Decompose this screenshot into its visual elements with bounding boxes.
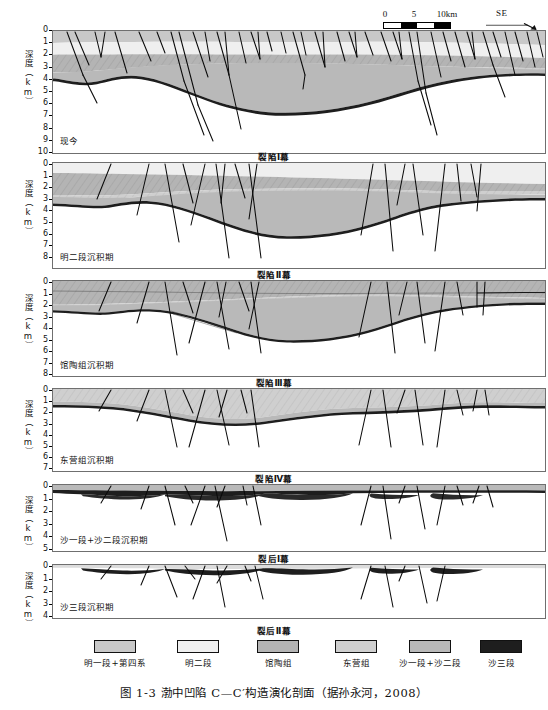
scale-tick-labels: 0 5 10km xyxy=(383,8,473,20)
tick-label: 6 xyxy=(43,228,48,239)
stage-label-4: 东营组沉积期 xyxy=(60,453,114,465)
panel-dongying: 裂陷Ⅲ幕 深度（km） 0 1 2 3 4 5 6 7 xyxy=(0,376,548,476)
tick-label: 6 xyxy=(43,345,48,356)
y-axis-ticks-2: 0 1 2 3 4 5 6 7 8 xyxy=(30,162,52,270)
scale-and-orientation-bar: 0 5 10km SE xyxy=(0,4,548,30)
tick-label: 1 xyxy=(43,36,48,47)
legend-swatch-3 xyxy=(335,640,377,653)
tick-label: 5 xyxy=(43,216,48,227)
tick-label: 4 xyxy=(43,73,48,84)
tick-label: 2 xyxy=(43,585,48,596)
cross-section-plot-4 xyxy=(52,388,546,472)
orientation-label: SE xyxy=(496,8,508,18)
legend-swatch-5 xyxy=(480,640,522,653)
tick-label: 5 xyxy=(43,334,48,345)
tick-label: 3 xyxy=(43,311,48,322)
y-axis-ticks-5: 0 1 2 3 4 5 xyxy=(30,484,52,554)
cross-section-plot-1 xyxy=(52,30,546,154)
tick-label: 6 xyxy=(43,97,48,108)
tick-label: 2 xyxy=(43,181,48,192)
tick-label: 4 xyxy=(43,429,48,440)
tick-label: 1 xyxy=(43,573,48,584)
tick-label: 0 xyxy=(43,560,48,571)
scale-tick-10: 10km xyxy=(437,8,458,20)
legend-swatch-1 xyxy=(177,640,219,653)
tick-label: 2 xyxy=(43,48,48,59)
tick-label: 1 xyxy=(43,395,48,406)
tick-label: 1 xyxy=(43,493,48,504)
tick-label: 7 xyxy=(43,357,48,368)
y-axis-ticks-6: 0 1 2 3 4 xyxy=(30,564,52,622)
tick-label: 4 xyxy=(43,530,48,541)
panel-title-6: 裂后Ⅰ幕 xyxy=(0,552,548,564)
tick-label: 7 xyxy=(43,239,48,250)
tick-label: 2 xyxy=(43,505,48,516)
legend: 明一段+第四系 明二段 馆陶组 东营组 沙一段+沙二段 沙三段 xyxy=(0,640,548,678)
legend-label-5: 沙三段 xyxy=(456,656,546,668)
tick-label: 4 xyxy=(43,322,48,333)
tick-label: 5 xyxy=(43,85,48,96)
panel-guantao: 裂陷Ⅱ幕 深度（km） 0 1 2 3 4 5 6 7 8 xyxy=(0,268,548,380)
stage-label-3: 馆陶组沉积期 xyxy=(60,358,114,370)
tick-label: 2 xyxy=(43,299,48,310)
tick-label: 9 xyxy=(43,134,48,145)
tick-label: 8 xyxy=(43,122,48,133)
tick-label: 8 xyxy=(43,251,48,262)
tick-label: 1 xyxy=(43,170,48,181)
panel-title-4: 裂陷Ⅲ幕 xyxy=(0,376,548,388)
tick-label: 3 xyxy=(43,598,48,609)
tick-label: 6 xyxy=(43,451,48,462)
tick-label: 4 xyxy=(43,204,48,215)
scale-tick-0: 0 xyxy=(383,8,388,20)
tick-label: 1 xyxy=(43,288,48,299)
cross-section-plot-3 xyxy=(52,280,546,377)
panel-ming2: 裂陷Ⅰ幕 深度（km） 0 1 2 3 4 5 6 7 8 xyxy=(0,150,548,272)
tick-label: 0 xyxy=(43,480,48,491)
panel-title-3: 裂陷Ⅱ幕 xyxy=(0,268,548,280)
orientation-group: SE xyxy=(492,8,548,30)
y-axis-ticks-3: 0 1 2 3 4 5 6 7 8 xyxy=(30,280,52,378)
figure-caption: 图 1-3 渤中凹陷 C—C′构造演化剖面（据孙永河，2008） xyxy=(0,684,548,700)
panel-present-day: 深度（km） 0 1 2 3 4 5 6 7 8 9 10 xyxy=(0,28,548,154)
stage-label-6: 沙三段沉积期 xyxy=(60,600,114,612)
tick-label: 3 xyxy=(43,418,48,429)
figure-root: 0 5 10km SE 深度（km） 0 1 2 3 4 5 xyxy=(0,0,548,710)
tick-label: 2 xyxy=(43,406,48,417)
panel-title-5: 裂陷Ⅳ幕 xyxy=(0,472,548,484)
cross-section-plot-6 xyxy=(52,564,546,619)
tick-label: 0 xyxy=(43,276,48,287)
scale-tick-5: 5 xyxy=(412,8,417,20)
tick-label: 3 xyxy=(43,61,48,72)
legend-swatch-4 xyxy=(409,640,451,653)
legend-item-5: 沙三段 xyxy=(456,640,546,668)
y-axis-ticks-4: 0 1 2 3 4 5 6 7 xyxy=(30,388,52,474)
tick-label: 0 xyxy=(43,158,48,169)
scale-bar-group: 0 5 10km xyxy=(383,8,473,20)
tick-label: 3 xyxy=(43,193,48,204)
y-axis-ticks-1: 0 1 2 3 4 5 6 7 8 9 10 xyxy=(30,28,52,154)
tick-label: 0 xyxy=(43,384,48,395)
stage-label-5: 沙一段+沙二段沉积期 xyxy=(60,533,148,545)
panel-sha3: 裂后Ⅰ幕 深度（km） 0 1 2 3 4 xyxy=(0,552,548,626)
tick-label: 4 xyxy=(43,610,48,621)
bottom-panel-title: 裂后Ⅱ幕 xyxy=(0,624,548,636)
legend-swatch-2 xyxy=(257,640,299,653)
tick-label: 0 xyxy=(43,24,48,35)
tick-label: 7 xyxy=(43,109,48,120)
stage-label-1: 现今 xyxy=(60,134,78,146)
stage-label-2: 明二段沉积期 xyxy=(60,250,114,262)
cross-section-plot-2 xyxy=(52,162,546,269)
tick-label: 3 xyxy=(43,518,48,529)
panel-sha12: 裂陷Ⅳ幕 深度（km） 0 1 2 3 4 5 xyxy=(0,472,548,558)
legend-swatch-0 xyxy=(94,640,136,653)
panel-title-2: 裂陷Ⅰ幕 xyxy=(0,150,548,162)
tick-label: 5 xyxy=(43,440,48,451)
